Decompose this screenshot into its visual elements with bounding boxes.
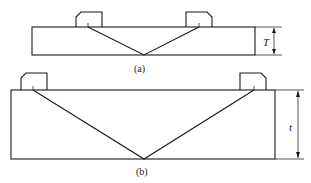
- arrowhead-up-icon: [296, 91, 300, 97]
- beam-path-a: [88, 27, 199, 55]
- arrowhead-down-icon: [296, 152, 300, 158]
- arrowhead-down-icon: [272, 49, 276, 54]
- dimension-label-a: T: [263, 36, 270, 48]
- caption-a: (a): [134, 63, 145, 75]
- plate-a: [32, 27, 255, 55]
- diagram-canvas: T (a) t (b): [0, 0, 311, 183]
- beam-path-b: [33, 90, 254, 159]
- probe-a-left: [76, 12, 102, 27]
- probe-b-right: [240, 73, 266, 90]
- arrowhead-up-icon: [272, 28, 276, 33]
- panel-b: t (b): [11, 73, 304, 178]
- dimension-label-b: t: [289, 121, 293, 133]
- panel-a: T (a): [32, 12, 282, 75]
- probe-b-left: [21, 73, 47, 90]
- caption-b: (b): [136, 166, 148, 178]
